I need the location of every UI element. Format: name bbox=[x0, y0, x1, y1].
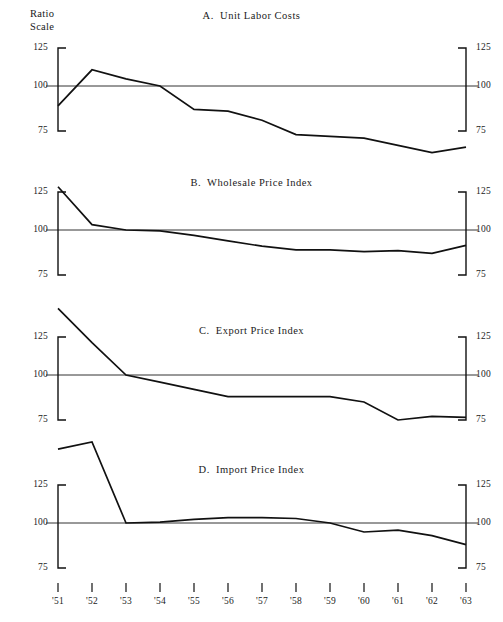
panel-a-ytick-left-125: 125 bbox=[8, 42, 48, 52]
x-axis-ticks bbox=[58, 583, 466, 592]
panel-d-ytick-left-75: 75 bbox=[8, 562, 48, 572]
panel-a-ytick-right-100: 100 bbox=[476, 80, 503, 90]
panel-b-plot bbox=[46, 187, 478, 275]
panel-d-ytick-left-100: 100 bbox=[8, 517, 48, 527]
series-line bbox=[58, 70, 466, 153]
panel-c-ytick-left-100: 100 bbox=[8, 369, 48, 379]
panel-b-ytick-right-100: 100 bbox=[476, 224, 503, 234]
right-axis-bracket bbox=[458, 192, 466, 275]
panel-a-ytick-left-75: 75 bbox=[8, 125, 48, 135]
panel-b-ytick-right-75: 75 bbox=[476, 269, 503, 279]
panel-a-ytick-right-125: 125 bbox=[476, 42, 503, 52]
panel-d-ytick-left-125: 125 bbox=[8, 479, 48, 489]
panel-b-ytick-left-125: 125 bbox=[8, 186, 48, 196]
right-axis-bracket bbox=[458, 337, 466, 420]
panel-a-ytick-left-100: 100 bbox=[8, 80, 48, 90]
left-axis-bracket bbox=[58, 48, 66, 131]
panel-a-plot bbox=[46, 48, 478, 153]
panel-title-a: A. Unit Labor Costs bbox=[0, 10, 503, 21]
right-axis-bracket bbox=[458, 48, 466, 131]
series-line bbox=[58, 442, 466, 545]
chart-canvas bbox=[0, 0, 503, 622]
panel-c-ytick-right-100: 100 bbox=[476, 369, 503, 379]
panel-a-ytick-right-75: 75 bbox=[476, 125, 503, 135]
panel-c-ytick-left-125: 125 bbox=[8, 331, 48, 341]
panel-c-ytick-right-75: 75 bbox=[476, 414, 503, 424]
left-axis-bracket bbox=[58, 337, 66, 420]
panel-b-ytick-left-75: 75 bbox=[8, 269, 48, 279]
panel-c-ytick-left-75: 75 bbox=[8, 414, 48, 424]
panel-b-ytick-left-100: 100 bbox=[8, 224, 48, 234]
left-axis-bracket bbox=[58, 485, 66, 568]
panel-d-ytick-right-125: 125 bbox=[476, 479, 503, 489]
panel-c-ytick-right-125: 125 bbox=[476, 331, 503, 341]
panel-d-ytick-right-100: 100 bbox=[476, 517, 503, 527]
panel-d-ytick-right-75: 75 bbox=[476, 562, 503, 572]
panel-title-b: B. Wholesale Price Index bbox=[0, 177, 503, 188]
series-line bbox=[58, 187, 466, 254]
panel-d-plot bbox=[46, 442, 478, 568]
x-axis-tick-label: '63 bbox=[446, 596, 486, 606]
panel-b-ytick-right-125: 125 bbox=[476, 186, 503, 196]
economic-index-figure: Ratio Scale A. Unit Labor Costs B. Whole… bbox=[0, 0, 503, 622]
right-axis-bracket bbox=[458, 485, 466, 568]
panel-title-c: C. Export Price Index bbox=[0, 325, 503, 336]
left-axis-bracket bbox=[58, 192, 66, 275]
panel-title-d: D. Import Price Index bbox=[0, 464, 503, 475]
